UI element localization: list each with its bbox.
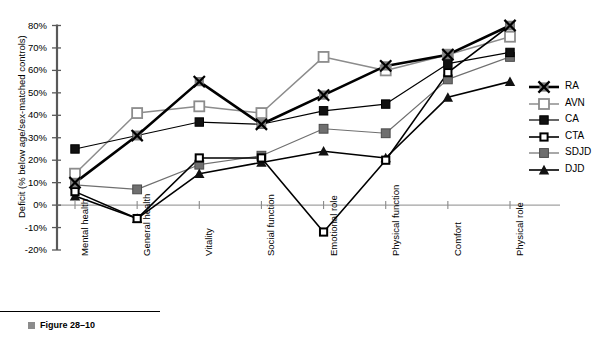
- x-tick-label: Social function: [265, 194, 276, 256]
- y-tick-label: 10%: [7, 177, 47, 188]
- legend-item-ra[interactable]: RA: [528, 78, 591, 95]
- legend-marker-icon: [528, 80, 560, 92]
- y-tick-label: 60%: [7, 64, 47, 75]
- legend-label: SDJD: [565, 146, 591, 158]
- y-tick-label: 50%: [7, 87, 47, 98]
- figure-caption: Figure 28–10: [28, 320, 95, 330]
- legend-marker-icon: [528, 97, 560, 109]
- y-tick-label: 20%: [7, 154, 47, 165]
- legend-marker-icon: [528, 113, 560, 125]
- legend-item-sdjd[interactable]: SDJD: [528, 144, 591, 161]
- legend-marker-icon: [528, 130, 560, 142]
- figure-caption-text: Figure 28–10: [40, 320, 95, 330]
- y-tick-label: 80%: [7, 20, 47, 31]
- y-tick-label: 70%: [7, 42, 47, 53]
- x-tick-label: Emotional role: [328, 195, 339, 256]
- legend-label: DJD: [565, 163, 584, 175]
- y-tick-label: -10%: [7, 222, 47, 233]
- x-tick-label: Physical function: [390, 185, 401, 256]
- caption-divider: [0, 311, 160, 312]
- legend-label: RA: [565, 80, 579, 92]
- figure-container: Deficit (% below age/sex-matched control…: [0, 0, 614, 341]
- legend-marker-icon: [528, 163, 560, 175]
- legend-item-avn[interactable]: AVN: [528, 95, 591, 112]
- x-tick-label: General health: [141, 194, 152, 256]
- x-tick-label: Mental health: [79, 199, 90, 256]
- chart-legend: RAAVNCACTASDJDDJD: [528, 78, 591, 177]
- x-tick-label: Vitality: [203, 228, 214, 256]
- legend-label: AVN: [565, 97, 585, 109]
- square-bullet-icon: [28, 322, 35, 329]
- y-tick-label: 0%: [7, 199, 47, 210]
- y-tick-label: 40%: [7, 109, 47, 120]
- legend-label: CTA: [565, 130, 584, 142]
- legend-label: CA: [565, 113, 579, 125]
- x-tick-label: Physical role: [514, 202, 525, 256]
- legend-marker-icon: [528, 146, 560, 158]
- legend-item-djd[interactable]: DJD: [528, 161, 591, 178]
- y-tick-label: -20%: [7, 244, 47, 255]
- x-tick-label: Comfort: [452, 222, 463, 256]
- legend-item-ca[interactable]: CA: [528, 111, 591, 128]
- y-tick-label: 30%: [7, 132, 47, 143]
- legend-item-cta[interactable]: CTA: [528, 128, 591, 145]
- chart-plot: [0, 0, 614, 341]
